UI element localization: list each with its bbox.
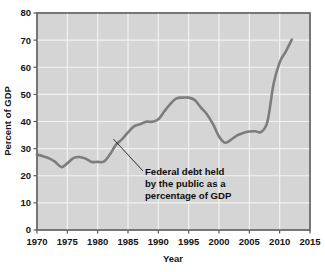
- x-axis-ticks: 1970197519801985199019952000200520102015: [26, 230, 321, 247]
- y-tick-label: 40: [20, 116, 31, 127]
- y-tick-label: 30: [20, 143, 31, 154]
- y-tick-label: 60: [20, 62, 31, 73]
- y-tick-label: 0: [26, 224, 31, 235]
- y-axis-ticks: 01020304050607080: [20, 7, 37, 235]
- chart-container: 01020304050607080 1970197519801985199019…: [0, 0, 325, 272]
- x-tick-label: 2015: [299, 236, 321, 247]
- x-tick-label: 2005: [239, 236, 261, 247]
- x-axis-title: Year: [163, 253, 183, 264]
- y-tick-label: 70: [20, 35, 31, 46]
- y-tick-label: 80: [20, 7, 31, 18]
- x-tick-label: 1985: [117, 236, 139, 247]
- annotation-line-2: by the public as a: [145, 178, 226, 189]
- y-tick-label: 50: [20, 89, 31, 100]
- x-tick-label: 1975: [57, 236, 79, 247]
- y-axis-title: Percent of GDP: [2, 85, 13, 155]
- y-tick-label: 10: [20, 197, 31, 208]
- line-chart: 01020304050607080 1970197519801985199019…: [0, 0, 325, 272]
- x-tick-label: 1970: [26, 236, 47, 247]
- annotation-line-3: percentage of GDP: [145, 190, 232, 201]
- x-tick-label: 1990: [148, 236, 169, 247]
- y-tick-label: 20: [20, 170, 31, 181]
- annotation-line-1: Federal debt held: [145, 166, 225, 177]
- x-tick-label: 1980: [87, 236, 108, 247]
- x-tick-label: 1995: [178, 236, 200, 247]
- x-tick-label: 2010: [269, 236, 290, 247]
- x-tick-label: 2000: [208, 236, 229, 247]
